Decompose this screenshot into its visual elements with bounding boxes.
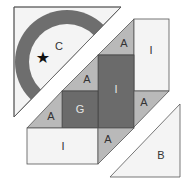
label-c: C (55, 40, 63, 52)
label-a-right: A (140, 96, 148, 108)
label-a-bottom: A (104, 133, 112, 145)
label-a-upper-left: A (83, 73, 91, 85)
quilt-block-diagram: C ★ A I I A G A A I A B (0, 0, 190, 188)
label-i-bottom: I (61, 140, 64, 152)
label-a-left: A (47, 110, 55, 122)
label-a-top: A (120, 37, 128, 49)
label-b: B (157, 149, 164, 161)
star-icon: ★ (36, 48, 50, 67)
label-i-center: I (114, 83, 117, 95)
label-g: G (76, 103, 85, 115)
label-i-top-right: I (149, 44, 152, 56)
